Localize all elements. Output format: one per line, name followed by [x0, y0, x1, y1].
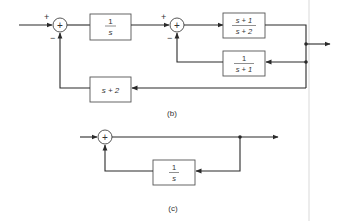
diagram-c: + 1 s (c)	[80, 130, 278, 213]
integrator-numerator: 1	[108, 17, 113, 26]
outer-feedback-expr: s + 2	[102, 86, 120, 95]
forward-denominator: s + 2	[236, 27, 253, 36]
figure-label-b: (b)	[167, 109, 177, 118]
inner-feedback-wire	[177, 33, 223, 62]
block-c-denominator: s	[172, 174, 176, 183]
inner-feedback-numerator: 1	[242, 54, 246, 63]
outer-feedback-wire	[60, 33, 90, 88]
sum1-symbol: +	[57, 20, 63, 31]
forward-numerator: s + 1	[236, 16, 252, 25]
sum-c-symbol: +	[102, 132, 108, 143]
output-bus	[265, 25, 306, 88]
diagram-b: + + − 1 s + + − s + 1 s + 2 1 s + 1	[19, 12, 330, 118]
block-c-numerator: 1	[172, 163, 176, 172]
sum2-plus-sign: +	[161, 12, 166, 22]
sum1-plus-sign: +	[44, 12, 49, 22]
sum1-minus-sign: −	[50, 33, 55, 43]
feedback-wire-c-left	[105, 145, 153, 171]
integrator-denominator: s	[109, 28, 113, 37]
inner-feedback-denominator: s + 1	[236, 65, 252, 74]
figure-label-c: (c)	[168, 204, 178, 213]
block-diagram-canvas: + + − 1 s + + − s + 1 s + 2 1 s + 1	[0, 0, 349, 221]
sum2-minus-sign: −	[167, 33, 172, 43]
sum2-symbol: +	[174, 20, 180, 31]
feedback-wire-c-right	[196, 137, 240, 171]
